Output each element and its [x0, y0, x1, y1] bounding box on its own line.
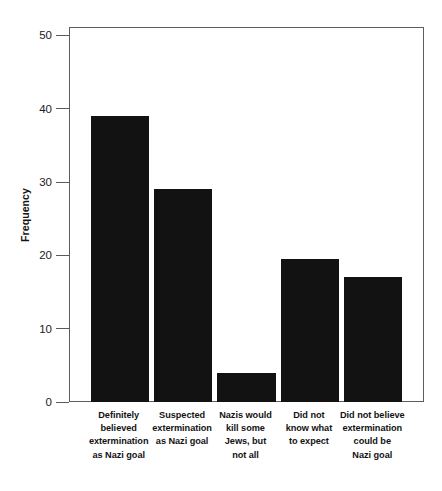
bar — [154, 189, 212, 402]
y-axis-tick-mark — [56, 328, 69, 329]
y-axis-tick-mark — [56, 255, 69, 256]
x-axis-label-line: as Nazi goal — [80, 449, 157, 462]
x-axis-label-line: Nazi goal — [334, 449, 411, 462]
y-axis-tick-label: 30 — [39, 174, 52, 190]
y-axis-tick-mark — [56, 182, 69, 183]
x-axis-label-line: Did not believe — [334, 409, 411, 422]
y-axis-tick-label: 20 — [39, 247, 52, 263]
x-axis-label-line: extermination — [334, 422, 411, 435]
y-axis-tick-label: 50 — [39, 27, 52, 43]
y-axis-tick-mark — [56, 35, 69, 36]
x-axis-label-line: not all — [207, 449, 284, 462]
bar — [344, 277, 402, 402]
bar — [281, 259, 339, 402]
x-axis-label: Did not believeexterminationcould beNazi… — [334, 409, 411, 462]
y-axis-tick-label: 10 — [39, 321, 52, 337]
bar-chart: Frequency 01020304050 Definitelybelieved… — [0, 0, 442, 491]
y-axis-title-text: Frequency — [19, 188, 31, 242]
bar — [91, 116, 149, 402]
bars-layer — [70, 28, 423, 402]
y-axis-tick-label: 40 — [39, 101, 52, 117]
x-axis-label-line: could be — [334, 435, 411, 448]
bar — [217, 373, 275, 402]
y-axis-tick-label: 0 — [46, 394, 52, 410]
y-axis-tick-mark — [56, 402, 69, 403]
x-axis-labels: Definitelybelievedexterminationas Nazi g… — [69, 409, 424, 489]
y-axis-title: Frequency — [14, 0, 36, 430]
y-axis-tick-mark — [56, 108, 69, 109]
